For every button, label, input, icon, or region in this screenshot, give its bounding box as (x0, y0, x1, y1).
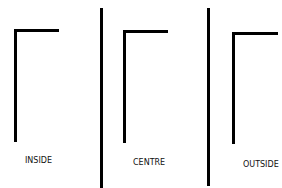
centre-label: CENTRE (133, 158, 165, 167)
centre-bracket-vertical (123, 30, 126, 143)
inside-label: INSIDE (25, 156, 52, 165)
inside-bracket-horizontal (14, 29, 59, 32)
divider-line-2 (207, 8, 210, 186)
outside-bracket-horizontal (232, 32, 278, 35)
centre-bracket-horizontal (123, 30, 168, 33)
divider-line-1 (100, 8, 103, 188)
outside-bracket-vertical (232, 32, 235, 144)
inside-bracket-vertical (14, 29, 17, 142)
outside-label: OUTSIDE (243, 160, 279, 169)
